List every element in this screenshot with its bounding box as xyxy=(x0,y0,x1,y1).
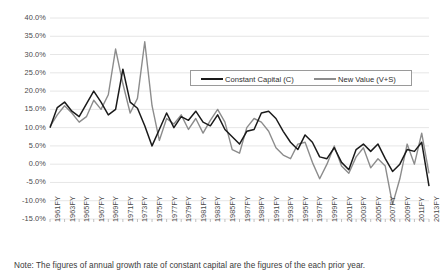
y-axis-tick-label: 40.0% xyxy=(0,13,46,22)
legend-label-new-value: New Value (V+S) xyxy=(338,75,396,84)
x-axis-tick-label: 1975FY xyxy=(155,196,164,222)
x-axis-tick-label: 2013FY xyxy=(432,196,441,222)
y-axis-tick-label: 15.0% xyxy=(0,104,46,113)
legend-swatch-constant-capital xyxy=(201,78,223,80)
chart-note: Note: The figures of annual growth rate … xyxy=(14,261,365,270)
x-axis-tick-label: 2001FY xyxy=(345,196,354,222)
y-axis-tick-label: 25.0% xyxy=(0,68,46,77)
x-axis-tick-label: 1967FY xyxy=(97,196,106,222)
y-axis-tick-label: 5.0% xyxy=(0,141,46,150)
x-axis-tick-label: 1981FY xyxy=(199,196,208,222)
x-axis-tick-label: 2009FY xyxy=(403,196,412,222)
y-axis-tick-label: -5.0% xyxy=(0,177,46,186)
x-axis-tick-label: 1965FY xyxy=(82,196,91,222)
legend-item-new-value: New Value (V+S) xyxy=(314,73,396,85)
y-axis-tick-label: 20.0% xyxy=(0,86,46,95)
y-axis-tick-label: -15.0% xyxy=(0,214,46,223)
y-axis-tick-label: 30.0% xyxy=(0,50,46,59)
x-axis-tick-label: 1993FY xyxy=(286,196,295,222)
x-axis-tick-label: 1991FY xyxy=(272,196,281,222)
legend-item-constant-capital: Constant Capital (C) xyxy=(201,73,294,85)
y-axis-tick-label: -10.0% xyxy=(0,196,46,205)
x-axis-tick-label: 1987FY xyxy=(243,196,252,222)
x-axis-tick-label: 1961FY xyxy=(53,196,62,222)
x-axis-tick-label: 1963FY xyxy=(68,196,77,222)
y-axis-tick-label: 35.0% xyxy=(0,31,46,40)
x-axis-tick-label: 1999FY xyxy=(330,196,339,222)
x-axis-tick-label: 2005FY xyxy=(374,196,383,222)
y-axis-tick-label: 0.0% xyxy=(0,159,46,168)
x-axis-tick-label: 1997FY xyxy=(315,196,324,222)
x-axis-tick-label: 1995FY xyxy=(301,196,310,222)
x-axis-tick-label: 1969FY xyxy=(111,196,120,222)
x-axis-tick-label: 1985FY xyxy=(228,196,237,222)
y-axis-tick-label: 10.0% xyxy=(0,123,46,132)
chart-legend: Constant Capital (C) New Value (V+S) xyxy=(190,70,412,86)
x-axis-tick-label: 1979FY xyxy=(184,196,193,222)
x-axis-tick-label: 2007FY xyxy=(388,196,397,222)
x-axis-tick-label: 2003FY xyxy=(359,196,368,222)
legend-swatch-new-value xyxy=(314,78,336,80)
x-axis-tick-label: 1971FY xyxy=(126,196,135,222)
x-axis-tick-label: 2011FY xyxy=(417,197,426,222)
x-axis-tick-label: 1989FY xyxy=(257,196,266,222)
legend-label-constant-capital: Constant Capital (C) xyxy=(225,75,294,84)
series-line-new-value xyxy=(50,42,429,205)
x-axis-tick-label: 1977FY xyxy=(170,196,179,222)
x-axis-tick-label: 1973FY xyxy=(140,196,149,222)
x-axis-tick-label: 1983FY xyxy=(213,196,222,222)
